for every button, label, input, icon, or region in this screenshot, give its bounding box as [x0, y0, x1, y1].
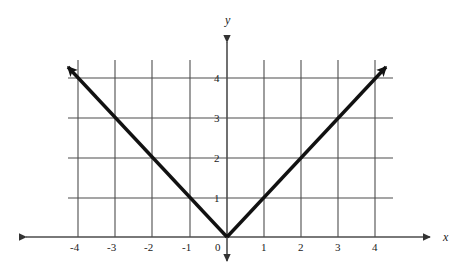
x-axis-label: x [443, 231, 448, 243]
curve-right-branch [227, 67, 386, 237]
x-tick-label-neg2: -2 [144, 242, 153, 253]
origin-label: 0 [215, 242, 221, 253]
curve-left-branch [68, 67, 227, 237]
coordinate-plane-svg [0, 0, 463, 279]
x-tick-label-pos1: 1 [261, 242, 267, 253]
x-tick-label-neg3: -3 [107, 242, 116, 253]
y-tick-label-pos4: 4 [214, 73, 220, 84]
x-tick-label-neg4: -4 [70, 242, 79, 253]
y-tick-label-pos1: 1 [214, 193, 220, 204]
x-tick-label-pos3: 3 [335, 242, 341, 253]
graph-figure: -4 -3 -2 -1 0 1 2 3 4 4 3 2 1 y x [0, 0, 463, 279]
y-tick-label-pos2: 2 [214, 153, 220, 164]
x-tick-label-pos4: 4 [372, 242, 378, 253]
x-tick-label-neg1: -1 [182, 242, 191, 253]
x-tick-label-pos2: 2 [298, 242, 304, 253]
horizontal-gridlines [68, 78, 393, 198]
y-axis-label: y [225, 14, 230, 26]
y-tick-label-pos3: 3 [214, 113, 220, 124]
